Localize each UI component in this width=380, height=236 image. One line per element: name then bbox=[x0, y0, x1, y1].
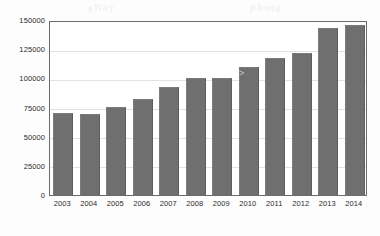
watermark-left: eBay bbox=[88, 0, 116, 14]
y-tick-label: 0 bbox=[0, 192, 45, 200]
x-tick-label-2006: 2006 bbox=[129, 199, 156, 208]
bar-2012 bbox=[292, 53, 312, 195]
x-tick-label-2012: 2012 bbox=[288, 199, 315, 208]
bar-2005 bbox=[106, 107, 126, 195]
x-tick-label-2008: 2008 bbox=[182, 199, 209, 208]
y-tick-label: 25000 bbox=[0, 163, 45, 171]
y-axis: 0250005000075000100000125000150000 bbox=[0, 0, 45, 236]
x-tick-label-2011: 2011 bbox=[261, 199, 288, 208]
x-tick-label-2014: 2014 bbox=[341, 199, 368, 208]
plot-area bbox=[50, 22, 366, 195]
bar-2013 bbox=[318, 28, 338, 195]
bar-2014 bbox=[345, 25, 365, 195]
y-tick-label: 150000 bbox=[0, 17, 45, 25]
bar-2006 bbox=[133, 99, 153, 195]
scan-artifact-speck: > bbox=[239, 68, 244, 78]
x-tick-label-2003: 2003 bbox=[49, 199, 76, 208]
y-tick-label: 125000 bbox=[0, 46, 45, 54]
bar-2003 bbox=[53, 113, 73, 195]
x-tick-label-2005: 2005 bbox=[102, 199, 129, 208]
x-axis: 2003200420052006200720082009201020112012… bbox=[49, 199, 367, 213]
x-tick-label-2010: 2010 bbox=[235, 199, 262, 208]
bar-2004 bbox=[80, 114, 100, 195]
bar-2007 bbox=[159, 87, 179, 196]
y-tick-label: 50000 bbox=[0, 134, 45, 142]
y-tick-label: 75000 bbox=[0, 105, 45, 113]
bar-2008 bbox=[186, 78, 206, 195]
y-tick-label: 100000 bbox=[0, 75, 45, 83]
bar-2009 bbox=[212, 78, 232, 195]
x-tick-label-2007: 2007 bbox=[155, 199, 182, 208]
bar-2010 bbox=[239, 67, 259, 195]
bar-2011 bbox=[265, 58, 285, 195]
x-tick-label-2013: 2013 bbox=[314, 199, 341, 208]
x-tick-label-2009: 2009 bbox=[208, 199, 235, 208]
x-tick-label-2004: 2004 bbox=[76, 199, 103, 208]
bar-chart: eBay photo 02500050000750001000001250001… bbox=[0, 0, 380, 236]
watermark-right: photo bbox=[250, 0, 282, 14]
plot-frame bbox=[49, 21, 367, 196]
